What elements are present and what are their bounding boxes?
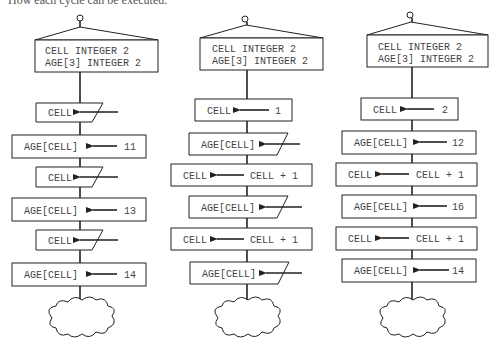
step-target: AGE[CELL] — [201, 203, 255, 214]
step-target: CELL — [48, 236, 72, 247]
header-roof — [200, 25, 323, 38]
step-value: 14 — [452, 266, 464, 277]
declaration-line-1: CELL INTEGER 2 — [212, 44, 296, 55]
step-target: CELL — [48, 173, 72, 184]
cloud-terminator-icon — [380, 297, 445, 337]
step-target: AGE[CELL] — [354, 266, 408, 277]
step-target: CELL — [183, 171, 207, 182]
step-value: 11 — [124, 142, 136, 153]
header-roof — [367, 22, 488, 35]
entry-circle-icon — [242, 16, 248, 22]
declaration-line-2: AGE[3] INTEGER 2 — [212, 56, 308, 67]
step-target: CELL — [207, 106, 231, 117]
step-target: AGE[CELL] — [24, 206, 78, 217]
step-value: CELL + 1 — [416, 234, 464, 245]
flowchart-diagram: CELL INTEGER 2 AGE[3] INTEGER 2 CELL AGE… — [0, 0, 498, 341]
step-value: 2 — [442, 105, 448, 116]
step-value: 13 — [124, 206, 136, 217]
step-target: CELL — [348, 170, 372, 181]
step-target: AGE[CELL] — [24, 270, 78, 281]
header-roof — [35, 27, 158, 40]
declaration-line-1: CELL INTEGER 2 — [378, 42, 462, 53]
declaration-line-2: AGE[3] INTEGER 2 — [45, 58, 141, 69]
entry-circle-icon — [407, 12, 413, 18]
step-target: AGE[CELL] — [354, 202, 408, 213]
step-target: AGE[CELL] — [354, 138, 408, 149]
step-value: CELL + 1 — [250, 171, 298, 182]
step-target: AGE[CELL] — [24, 142, 78, 153]
step-value: 12 — [452, 138, 464, 149]
step-target: CELL — [48, 108, 72, 119]
step-target: CELL — [348, 234, 372, 245]
step-target: AGE[CELL] — [202, 269, 256, 280]
step-value: CELL + 1 — [250, 235, 298, 246]
step-target: CELL — [183, 235, 207, 246]
step-value: CELL + 1 — [416, 170, 464, 181]
declaration-line-1: CELL INTEGER 2 — [45, 46, 129, 57]
step-value: 1 — [275, 106, 281, 117]
declaration-line-2: AGE[3] INTEGER 2 — [378, 54, 474, 65]
entry-circle-icon — [77, 15, 83, 21]
step-value: 14 — [124, 270, 136, 281]
cloud-terminator-icon — [215, 297, 280, 337]
step-target: CELL — [373, 105, 397, 116]
cloud-terminator-icon — [49, 297, 114, 337]
step-value: 16 — [452, 202, 464, 213]
step-target: AGE[CELL] — [201, 140, 255, 151]
